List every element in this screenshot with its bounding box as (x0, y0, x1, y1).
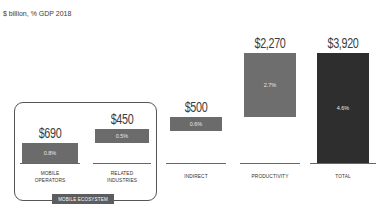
category-label-indirect: INDIRECT (161, 173, 231, 180)
baseline-productivity (240, 163, 300, 164)
pct-label-total: 4.6% (337, 105, 350, 111)
bar-indirect: 0.6% (170, 117, 222, 131)
value-label-productivity: $2,270 (251, 34, 288, 51)
pct-label-indirect: 0.6% (190, 121, 203, 127)
mobile-ecosystem-badge: MOBILE ECOSYSTEM (52, 194, 114, 204)
baseline-total (310, 163, 376, 164)
baseline-indirect (166, 163, 226, 164)
category-label-related-industries: RELATED INDUSTRIES (87, 170, 157, 184)
value-label-total: $3,920 (324, 34, 361, 51)
value-label-related-industries: $450 (103, 110, 142, 127)
pct-label-mobile-operators: 0.8% (44, 150, 57, 156)
value-label-indirect: $500 (177, 98, 214, 115)
chart-subtitle: $ billion, % GDP 2018 (3, 10, 71, 17)
pct-label-productivity: 2.7% (264, 82, 277, 88)
value-label-mobile-operators: $690 (30, 124, 70, 141)
pct-label-related-industries: 0.5% (116, 133, 129, 139)
category-label-total: TOTAL (308, 173, 378, 180)
category-label-mobile-operators: MOBILE OPERATORS (15, 170, 85, 184)
bar-productivity: 2.7% (244, 53, 296, 117)
baseline-related-industries (93, 163, 151, 164)
bar-mobile-operators: 0.8% (22, 143, 78, 163)
bar-related-industries: 0.5% (95, 129, 149, 143)
bar-total: 4.6% (317, 53, 369, 163)
category-label-productivity: PRODUCTIVITY (235, 173, 305, 180)
baseline-mobile-operators (20, 163, 80, 164)
